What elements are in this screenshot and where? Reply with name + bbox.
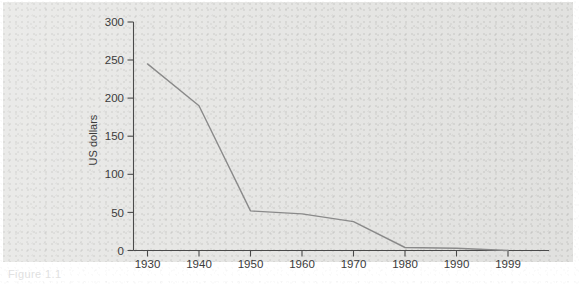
y-axis-tick-labels: 0 50 100 150 200 250 300 [105, 16, 124, 257]
y-axis-ticks [128, 22, 134, 251]
y-tick-label: 200 [105, 92, 124, 104]
x-tick-label: 1999 [495, 258, 521, 270]
y-tick-label: 300 [105, 16, 124, 28]
figure-screenshot: 0 50 100 150 200 250 300 US dollars 1930… [0, 0, 579, 284]
data-series-line [148, 64, 509, 251]
line-chart: 0 50 100 150 200 250 300 US dollars 1930… [0, 0, 579, 284]
x-tick-label: 1990 [444, 258, 470, 270]
y-tick-label: 150 [105, 130, 124, 142]
x-axis-ticks [148, 251, 509, 257]
y-tick-label: 100 [105, 168, 124, 180]
figure-caption: Figure 1.1 [8, 268, 428, 280]
y-tick-label: 50 [111, 207, 124, 219]
y-tick-label: 0 [118, 245, 124, 257]
y-axis-title: US dollars [87, 114, 99, 165]
y-tick-label: 250 [105, 54, 124, 66]
